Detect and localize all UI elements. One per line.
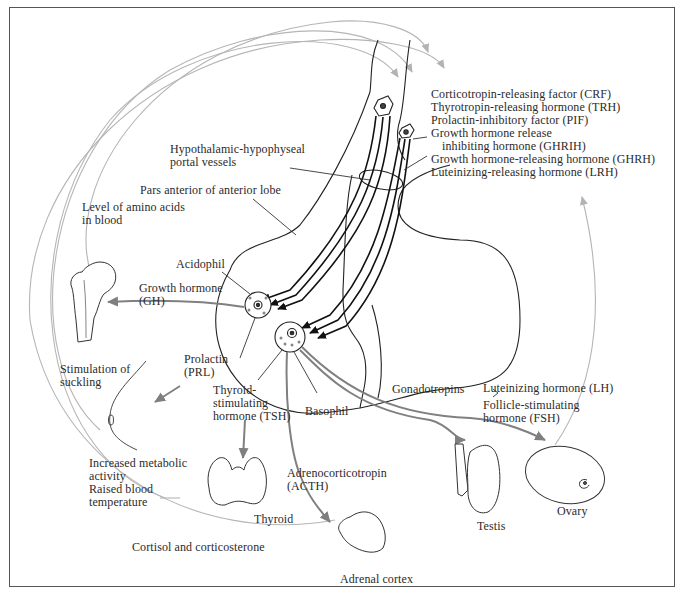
basophil-cell (275, 322, 305, 352)
metabolic-label: Increased metabolic activity Raised bloo… (89, 457, 187, 509)
pars-anterior-label: Pars anterior of anterior lobe (140, 184, 281, 197)
factor-lrh: Luteinizing-releasing hormone (LRH) (431, 166, 655, 179)
testis-label: Testis (477, 520, 505, 533)
acidophil-label: Acidophil (176, 258, 225, 271)
growth-hormone-label: Growth hormone (GH) (139, 282, 223, 308)
thyroid-gland-icon (208, 458, 266, 506)
portal-vessels-label: Hypothalamic-hypophyseal portal vessels (170, 143, 305, 169)
cortisol-label: Cortisol and corticosterone (132, 541, 265, 554)
acidophil-cell (245, 292, 271, 318)
adrenal-label: Adrenal cortex (340, 573, 413, 586)
tsh-arrow (243, 420, 245, 458)
acth-label: Adrenocorticotropin (ACTH) (287, 467, 387, 493)
ovary-icon (520, 439, 610, 510)
fsh-label: Follicle-stimulating hormone (FSH) (483, 399, 580, 425)
adrenal-gland-icon (339, 512, 386, 552)
prolactin-label: Prolactin (PRL) (184, 353, 228, 379)
basophil-label: Basophil (305, 405, 348, 418)
testis-icon (455, 444, 500, 513)
ovary-label: Ovary (557, 505, 588, 518)
gonadotropins-label: Gonadotropins (392, 383, 465, 396)
neuron-cell-icon (374, 96, 414, 138)
prl-arrow (155, 386, 180, 402)
thyroid-label: Thyroid (254, 513, 293, 526)
suckling-label: Stimulation of suckling (60, 363, 130, 389)
tsh-label: Thyroid- stimulating hormone (TSH) (213, 384, 291, 423)
lh-label: Luteinizing hormone (LH) (483, 382, 613, 395)
amino-acids-label: Level of amino acids in blood (82, 201, 185, 227)
hypothalamic-factors-list: Corticotropin-releasing factor (CRF) Thy… (431, 88, 655, 179)
